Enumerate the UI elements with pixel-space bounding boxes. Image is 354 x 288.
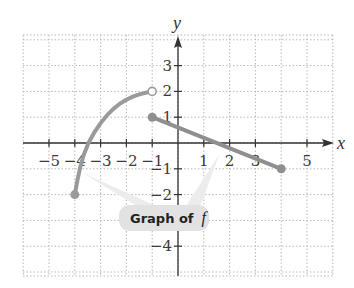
callout-text: Graph of <box>130 211 194 226</box>
y-tick-label: 2 <box>162 82 172 100</box>
x-tick-label: 1 <box>199 152 209 170</box>
y-tick-label: −4 <box>150 237 172 255</box>
y-tick-label: −2 <box>150 186 172 204</box>
y-axis-label: y <box>171 13 181 33</box>
callout-label: Graph of f <box>130 209 209 227</box>
y-tick-label: −1 <box>150 160 172 178</box>
x-axis-label: x <box>336 133 345 153</box>
x-tick-label: −3 <box>90 152 112 170</box>
x-tick-label: 2 <box>225 152 235 170</box>
callout-pointer-left <box>83 173 156 208</box>
function-graph: −5−4−3−2−11235321−1−2−4 x y Graph of f <box>0 0 354 288</box>
x-tick-label: 5 <box>302 152 312 170</box>
callout: Graph of f <box>119 205 209 231</box>
open-endpoint <box>148 87 156 95</box>
x-tick-label: −2 <box>115 152 137 170</box>
closed-endpoint <box>277 164 286 173</box>
closed-endpoint <box>148 113 157 122</box>
y-tick-label: 3 <box>162 57 172 75</box>
closed-endpoint <box>70 190 79 199</box>
x-tick-label: −5 <box>38 152 60 170</box>
